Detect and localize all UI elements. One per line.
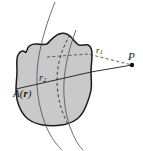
label-point-P: P (128, 51, 135, 62)
separation-solid-line (91, 65, 132, 72)
volume-body-shape (16, 33, 92, 126)
separation-vector-group (91, 65, 132, 72)
label-r1-base: r (96, 45, 100, 55)
label-r2: r2 (39, 73, 46, 84)
volume-body-group (16, 33, 92, 126)
point-P-group (130, 63, 134, 67)
point-P-dot (130, 63, 134, 67)
label-r2-subscript: 2 (43, 76, 46, 83)
label-A-suffix: ) (28, 87, 32, 99)
label-r1: r1 (96, 46, 103, 56)
figure-canvas (0, 0, 143, 151)
label-vector-potential: A(r) (13, 88, 31, 99)
label-r1-subscript: 1 (100, 49, 103, 55)
vector-potential-figure: A(r) r2 r1 P (0, 0, 143, 151)
label-A-prefix: A( (13, 87, 23, 99)
